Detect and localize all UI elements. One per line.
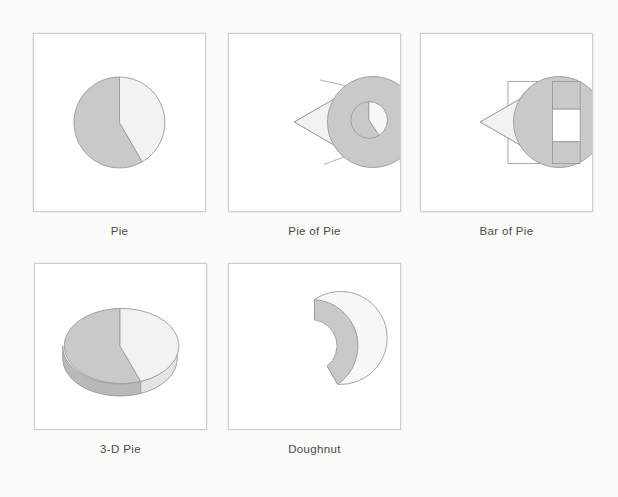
bar-segment-top bbox=[552, 81, 580, 109]
main-pie-slice-light bbox=[480, 99, 519, 144]
chart-type-option-pie[interactable]: Pie bbox=[33, 33, 206, 248]
chart-type-option-bar-of-pie[interactable]: Bar of Pie bbox=[420, 33, 593, 248]
chart-preview-frame-bar-of-pie[interactable] bbox=[420, 33, 593, 212]
chart-type-label-bar-of-pie: Bar of Pie bbox=[420, 224, 593, 238]
pie-of-pie-chart-preview bbox=[229, 34, 400, 211]
main-pie-slice-light bbox=[294, 99, 333, 144]
chart-type-option-3d-pie[interactable]: 3-D Pie bbox=[34, 263, 207, 467]
three-d-pie-chart-preview bbox=[35, 264, 206, 429]
chart-type-label-pie-of-pie: Pie of Pie bbox=[228, 224, 401, 238]
chart-type-gallery: Pie Pie of Pie bbox=[0, 0, 618, 497]
chart-type-label-doughnut: Doughnut bbox=[228, 442, 401, 456]
bar-segment-middle bbox=[552, 109, 580, 142]
chart-preview-frame-3d-pie[interactable] bbox=[34, 263, 207, 430]
chart-preview-frame-pie-of-pie[interactable] bbox=[228, 33, 401, 212]
chart-type-label-3d-pie: 3-D Pie bbox=[34, 442, 207, 456]
bar-segment-bottom bbox=[552, 142, 580, 164]
chart-type-option-doughnut[interactable]: Doughnut bbox=[228, 263, 401, 467]
chart-preview-frame-doughnut[interactable] bbox=[228, 263, 401, 430]
chart-preview-frame-pie[interactable] bbox=[33, 33, 206, 212]
pie-chart-preview bbox=[34, 34, 205, 211]
chart-type-label-pie: Pie bbox=[33, 224, 206, 238]
bar-of-pie-chart-preview bbox=[421, 34, 592, 211]
chart-type-option-pie-of-pie[interactable]: Pie of Pie bbox=[228, 33, 401, 248]
doughnut-chart-preview bbox=[229, 264, 400, 429]
